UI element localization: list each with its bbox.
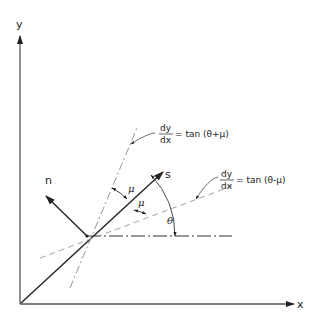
mu-lower-label: μ [138,197,145,208]
point-p [85,234,88,237]
minus-eq-numerator: dy [221,169,233,179]
x-axis-label: x [297,298,304,311]
mu-lower-angle-arc [134,210,146,214]
theta-angle-arc [151,175,175,236]
y-axis-label: y [16,18,23,31]
minus-characteristic-equation: dy dx = tan (θ-μ) [220,169,286,191]
characteristics-figure: y x s n θ μ μ dy dx = tan ( [0,0,316,327]
plus-eq-numerator: dy [160,123,172,133]
plus-eq-denominator: dx [160,135,172,145]
normal-label: n [45,174,52,187]
theta-label: θ [167,215,173,226]
normal-n [46,196,87,236]
minus-eq-denominator: dx [221,181,233,191]
streamline-label: s [165,168,171,181]
minus-equation-leader [196,177,218,199]
plus-characteristic-equation: dy dx = tan (θ+μ) [159,123,229,145]
plus-characteristic-line [70,128,137,288]
streamline-s [21,172,163,303]
mu-upper-label: μ [128,183,135,194]
plus-eq-rhs: = tan (θ+μ) [175,129,229,139]
minus-eq-rhs: = tan (θ-μ) [236,175,286,185]
mu-upper-angle-arc [112,188,127,199]
